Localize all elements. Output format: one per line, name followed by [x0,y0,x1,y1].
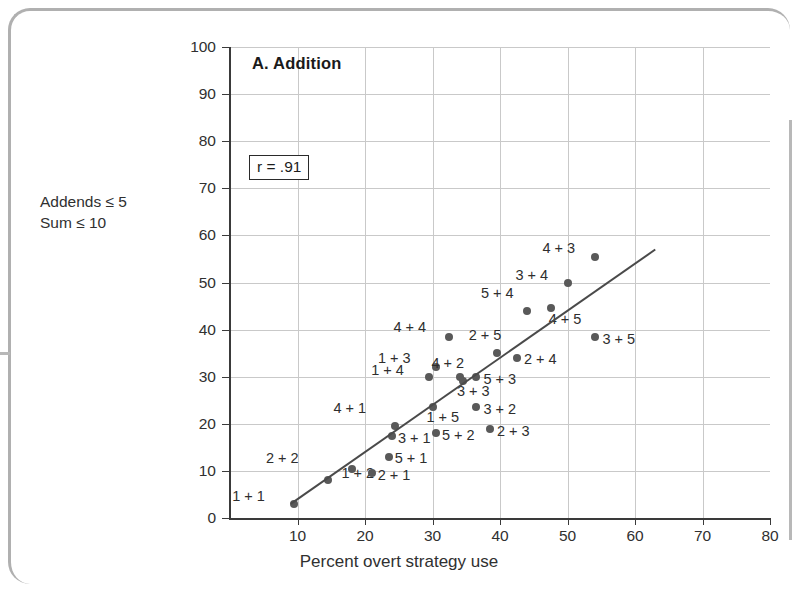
y-tick-label-90: 90 [176,86,216,102]
y-tick-label-100: 100 [176,39,216,55]
y-tick-mark-40 [222,330,230,331]
correlation-badge: r = .91 [249,155,309,180]
data-point-label: 4 + 5 [549,312,582,327]
data-point [523,307,531,315]
gridline-x-60 [635,47,636,518]
data-point-label: 4 + 2 [432,356,465,371]
y-tick-mark-10 [222,471,230,472]
y-tick-label-40: 40 [176,322,216,338]
data-point-label: 1 + 5 [427,410,460,425]
data-point [425,373,433,381]
data-point [591,253,599,261]
x-tick-label-40: 40 [477,528,523,544]
plot-area: 1 + 12 + 21 + 22 + 15 + 13 + 14 + 11 + 5… [230,47,770,518]
data-point [445,333,453,341]
data-point [368,469,376,477]
x-tick-mark-80 [770,518,771,525]
y-tick-mark-70 [222,188,230,189]
data-point-label: 2 + 2 [266,451,299,466]
data-point-label: 3 + 2 [483,402,516,417]
x-axis-title: Percent overt strategy use [0,552,798,572]
data-point-label: 1 + 1 [232,489,265,504]
gridline-x-70 [703,47,704,518]
x-tick-mark-50 [568,518,569,525]
y-tick-label-10: 10 [176,463,216,479]
data-point [472,403,480,411]
x-tick-label-60: 60 [612,528,658,544]
data-point [290,500,298,508]
data-point [324,476,332,484]
x-tick-mark-40 [500,518,501,525]
data-point [432,429,440,437]
data-point-label: 3 + 1 [398,431,431,446]
data-point-label: 2 + 3 [497,424,530,439]
x-tick-label-50: 50 [545,528,591,544]
x-tick-label-80: 80 [747,528,793,544]
y-tick-mark-50 [222,283,230,284]
data-point [513,354,521,362]
y-tick-mark-90 [222,94,230,95]
y-tick-label-80: 80 [176,133,216,149]
data-point [493,349,501,357]
x-tick-label-10: 10 [275,528,321,544]
data-point-label: 4 + 3 [543,241,576,256]
gridline-x-40 [500,47,501,518]
data-point-label: 3 + 4 [516,268,549,283]
gridline-x-20 [365,47,366,518]
y-axis-title: Percent errors [0,50,1,250]
gridline-x-30 [433,47,434,518]
x-tick-label-20: 20 [342,528,388,544]
x-tick-label-30: 30 [410,528,456,544]
y-tick-label-60: 60 [176,227,216,243]
y-tick-mark-100 [222,47,230,48]
y-tick-mark-60 [222,235,230,236]
data-point [564,279,572,287]
y-tick-mark-20 [222,424,230,425]
data-point [591,333,599,341]
x-tick-label-70: 70 [680,528,726,544]
x-tick-mark-30 [433,518,434,525]
scatter-chart-figure: Addends ≤ 5 Sum ≤ 10 Percent errors Perc… [0,0,798,590]
y-tick-label-20: 20 [176,416,216,432]
panel-title: A. Addition [252,54,342,73]
data-point-label: 2 + 4 [524,352,557,367]
x-tick-mark-70 [703,518,704,525]
data-point-label: 1 + 3 [378,351,411,366]
y-tick-mark-30 [222,377,230,378]
data-point [486,425,494,433]
y-tick-label-30: 30 [176,369,216,385]
data-point-label: 5 + 3 [483,372,516,387]
y-tick-mark-0 [222,518,230,519]
data-point-label: 5 + 4 [481,286,514,301]
data-point [388,432,396,440]
y-tick-label-50: 50 [176,275,216,291]
y-tick-label-70: 70 [176,180,216,196]
gridline-x-10 [298,47,299,518]
data-point-label: 4 + 4 [393,320,426,335]
data-point [385,453,393,461]
data-point [472,373,480,381]
data-point-label: 3 + 5 [603,332,636,347]
data-point-label: 5 + 2 [442,428,475,443]
y-tick-mark-80 [222,141,230,142]
y-tick-label-0: 0 [176,510,216,526]
data-point [391,422,399,430]
constraint-note: Addends ≤ 5 Sum ≤ 10 [40,192,127,234]
data-point-label: 2 + 5 [469,328,502,343]
data-point-label: 2 + 1 [378,468,411,483]
x-tick-mark-60 [635,518,636,525]
data-point-label: 5 + 1 [395,451,428,466]
x-tick-mark-20 [365,518,366,525]
x-tick-mark-10 [298,518,299,525]
data-point-label: 4 + 1 [333,401,366,416]
